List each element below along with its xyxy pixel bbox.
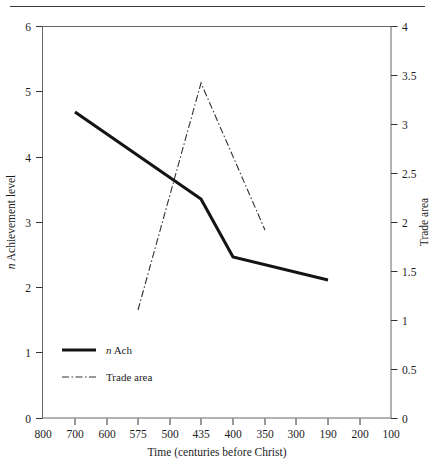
figure-container: 6 5 4 3 2 1 0 4 3.5 3 2.5 2 1.5 xyxy=(0,0,435,466)
x-axis-tick-labels: 800 700 600 575 500 435 400 350 300 190 … xyxy=(34,428,400,440)
y-right-tick-label: 0 xyxy=(402,413,408,425)
y-right-tick-label: 1.5 xyxy=(402,266,417,278)
svg-text:n Achievement level: n Achievement level xyxy=(5,175,17,270)
y-right-tick-label: 1 xyxy=(402,315,408,327)
x-tick-label: 300 xyxy=(287,428,305,440)
y-left-axis-tick-labels: 6 5 4 3 2 1 0 xyxy=(25,21,31,425)
y-right-tick-label: 3 xyxy=(402,119,408,131)
x-tick-label: 600 xyxy=(98,428,116,440)
legend-label-trade-area: Trade area xyxy=(106,371,152,383)
legend-label-n-ach-rest: Ach xyxy=(112,344,133,356)
x-tick-label: 800 xyxy=(34,428,52,440)
y-right-tick-label: 4 xyxy=(402,21,408,33)
y-left-tick-label: 5 xyxy=(25,86,31,98)
chart-legend: n Ach Trade area xyxy=(62,344,152,383)
y-right-axis-title: Trade area xyxy=(418,198,430,246)
x-tick-label: 700 xyxy=(66,428,84,440)
line-chart: 6 5 4 3 2 1 0 4 3.5 3 2.5 2 1.5 xyxy=(0,0,435,466)
legend-label-n-ach: n Ach xyxy=(106,344,132,356)
y-right-tick-label: 2 xyxy=(402,217,408,229)
x-tick-label: 100 xyxy=(382,428,400,440)
y-left-axis-title: n Achievement level xyxy=(5,175,17,270)
series-n-ach-line xyxy=(75,112,328,280)
x-tick-label: 350 xyxy=(256,428,274,440)
x-axis-title: Time (centuries before Christ) xyxy=(147,446,286,459)
y-right-tick-label: 2.5 xyxy=(402,168,417,180)
x-tick-label: 575 xyxy=(129,428,147,440)
y-right-tick-label: 0.5 xyxy=(402,364,417,376)
x-tick-label: 500 xyxy=(161,428,179,440)
x-tick-label: 400 xyxy=(224,428,242,440)
y-left-tick-label: 1 xyxy=(25,347,31,359)
y-left-tick-label: 6 xyxy=(25,21,31,33)
y-left-tick-label: 0 xyxy=(25,413,31,425)
y-right-tick-label: 3.5 xyxy=(402,70,417,82)
y-left-axis-title-rest: Achievement level xyxy=(5,175,17,264)
y-right-axis-tick-labels: 4 3.5 3 2.5 2 1.5 1 0.5 0 xyxy=(402,21,417,425)
y-left-axis-ticks xyxy=(36,27,43,419)
y-right-axis-ticks xyxy=(391,27,398,419)
plot-frame xyxy=(43,27,392,419)
x-axis-ticks xyxy=(75,419,360,426)
y-left-tick-label: 3 xyxy=(25,217,31,229)
x-tick-label: 435 xyxy=(192,428,210,440)
y-left-tick-label: 2 xyxy=(25,282,31,294)
x-tick-label: 190 xyxy=(319,428,337,440)
y-left-tick-label: 4 xyxy=(25,152,31,164)
series-trade-area-line xyxy=(138,83,265,310)
x-tick-label: 200 xyxy=(351,428,369,440)
